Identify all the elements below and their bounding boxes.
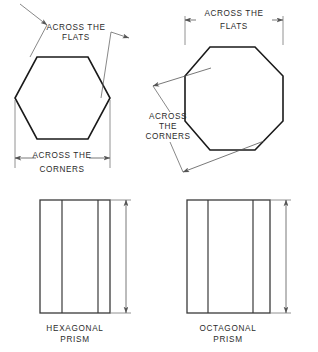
octagonal-prism-caption-line2: PRISM [213, 335, 242, 344]
hexagonal-prism-caption-line2: PRISM [60, 335, 89, 344]
octagon-across-corners-label-line3: CORNERS [145, 132, 190, 141]
hexagon-flats-leader-lower [111, 32, 129, 38]
octagon-corners-leader-lower [170, 142, 183, 172]
engineering-drawing-figure: ACROSS THE FLATS ACROSS THE CORNERS ACRO… [0, 0, 318, 352]
octagon-across-flats-label-line2: FLATS [220, 22, 248, 31]
hexagonal-prism-group: HEXAGONAL PRISM [40, 200, 131, 344]
hexagon-shape [15, 57, 110, 139]
octagon-corners-dim-lower [183, 141, 264, 172]
hexagon-group: ACROSS THE FLATS ACROSS THE CORNERS [15, 4, 129, 174]
hexagon-across-corners-label-line1: ACROSS THE [32, 151, 91, 160]
hexagon-flats-leader-upper [20, 4, 47, 25]
octagon-group: ACROSS THE FLATS ACROSS THE CORNERS [145, 9, 283, 172]
hexagon-across-flats-label-line1: ACROSS THE [46, 23, 105, 32]
hexagonal-prism-body [40, 200, 110, 313]
hexagon-flats-leader-lower-tail [101, 32, 111, 98]
hexagon-across-flats-label-line2: FLATS [62, 33, 90, 42]
octagon-across-corners-label-line2: THE [159, 122, 177, 131]
octagonal-prism-caption-line1: OCTAGONAL [199, 324, 256, 333]
octagon-across-corners-label-line1: ACROSS [149, 112, 187, 121]
hexagonal-prism-caption-line1: HEXAGONAL [46, 324, 103, 333]
drawing-canvas: ACROSS THE FLATS ACROSS THE CORNERS ACRO… [0, 0, 318, 352]
octagon-corners-dim-upper [153, 68, 211, 86]
octagon-corners-leader-upper [153, 86, 170, 112]
octagonal-prism-body [187, 200, 270, 313]
octagonal-prism-group: OCTAGONAL PRISM [187, 200, 291, 344]
hexagon-across-corners-label-line2: CORNERS [39, 165, 84, 174]
octagon-across-flats-label-line1: ACROSS THE [204, 9, 263, 18]
octagon-shape [185, 47, 283, 150]
hexagon-flats-leader-upper-tail [30, 25, 47, 57]
